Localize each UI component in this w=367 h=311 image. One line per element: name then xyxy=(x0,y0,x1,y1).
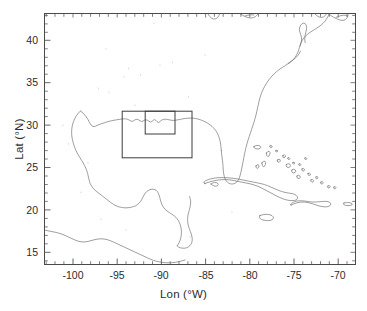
coastline-mexico-gulf xyxy=(72,111,182,246)
y-right-ticks xyxy=(351,15,356,260)
x-axis-title: Lon (°W) xyxy=(0,288,367,300)
coastline-top-fragment-b xyxy=(240,13,258,18)
xtick-label-minus100: -100 xyxy=(53,269,93,281)
coastline-cuba xyxy=(204,178,298,201)
coastline-central-america xyxy=(44,230,185,263)
coastline-chesapeake xyxy=(299,23,306,46)
xtick-label-minus85: -85 xyxy=(186,269,226,281)
y-major-ticks xyxy=(45,40,51,252)
coastline-outer-banks xyxy=(288,51,300,63)
coastline-hispaniola xyxy=(291,201,331,207)
coastline-top-fragment-a xyxy=(208,14,220,19)
coastline-cuba-bay-detail xyxy=(211,183,218,187)
ytick-label-40: 40 xyxy=(8,34,38,46)
xtick-label-minus90: -90 xyxy=(141,269,181,281)
outer-study-domain-box xyxy=(122,111,192,158)
coastline-top-fragment-c xyxy=(245,15,254,16)
map-canvas xyxy=(0,0,367,311)
ytick-label-20: 20 xyxy=(8,204,38,216)
axis-ticks xyxy=(45,14,356,265)
y-axis-title: Lat (°N) xyxy=(13,89,25,189)
coastline-florida xyxy=(221,14,329,184)
x-major-ticks xyxy=(73,259,338,265)
coastline-jamaica xyxy=(259,214,273,220)
xtick-label-minus95: -95 xyxy=(97,269,137,281)
coastline-layer xyxy=(44,13,352,262)
plot-frame xyxy=(45,14,356,265)
map-figure: -100 -95 -90 -85 -80 -75 -70 40 35 30 25… xyxy=(0,0,367,311)
coastline-puerto-rico xyxy=(343,203,352,206)
coastline-us-gulf xyxy=(81,111,222,151)
scan-speckles xyxy=(63,23,232,237)
x-top-ticks xyxy=(46,14,347,18)
ytick-label-35: 35 xyxy=(8,76,38,88)
xtick-label-minus70: -70 xyxy=(318,269,358,281)
study-domain-layer xyxy=(122,111,192,158)
coastline-long-island xyxy=(336,15,348,17)
coastline-bahamas xyxy=(254,145,336,188)
xtick-label-minus80: -80 xyxy=(230,269,270,281)
xtick-label-minus75: -75 xyxy=(274,269,314,281)
inner-study-domain-box xyxy=(145,111,175,134)
ytick-label-15: 15 xyxy=(8,246,38,258)
